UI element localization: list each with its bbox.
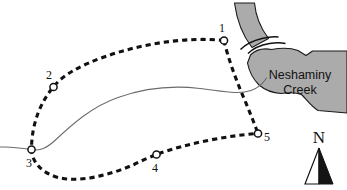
north-arrow: N: [305, 128, 333, 184]
site-label-4: 4: [152, 161, 158, 175]
site-label-5: 5: [264, 130, 270, 144]
map-canvas: 1 2 3 4 5 Neshaminy Creek N: [0, 0, 347, 190]
site-marker-1[interactable]: [220, 37, 227, 44]
site-marker-4[interactable]: [153, 151, 160, 158]
tributary-stream: [1, 78, 267, 150]
creek-label-line-2: Creek: [283, 83, 317, 97]
site-marker-5[interactable]: [254, 130, 261, 137]
dashed-survey-route: [32, 39, 259, 179]
map-figure: 1 2 3 4 5 Neshaminy Creek N: [0, 0, 347, 190]
site-label-2: 2: [46, 68, 52, 82]
neshaminy-creek-upper-channel: [235, 3, 269, 48]
site-marker-3[interactable]: [28, 146, 35, 153]
sampling-site-markers: [28, 37, 262, 158]
creek-label-line-1: Neshaminy: [269, 68, 332, 82]
site-label-1: 1: [219, 21, 225, 35]
site-label-3: 3: [26, 156, 32, 170]
north-arrow-letter: N: [313, 128, 325, 147]
north-arrow-right-half: [319, 148, 333, 184]
north-arrow-left-half: [305, 148, 319, 184]
site-marker-2[interactable]: [50, 83, 57, 90]
